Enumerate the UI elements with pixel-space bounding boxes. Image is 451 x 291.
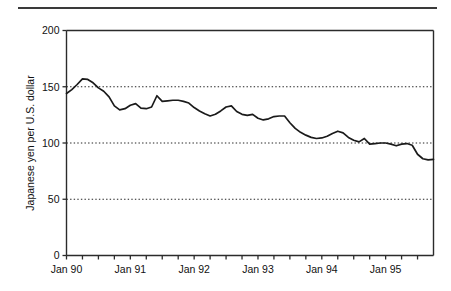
- y-tick-label: 0: [54, 249, 60, 261]
- y-tick-label: 50: [48, 193, 60, 205]
- x-axis-tick-labels: Jan 90Jan 91Jan 92Jan 93Jan 94Jan 95: [51, 263, 402, 275]
- x-tick-label: Jan 90: [51, 263, 83, 275]
- y-axis-tick-labels: 050100150200: [42, 24, 60, 261]
- x-tick-label: Jan 95: [370, 263, 402, 275]
- x-tick-label: Jan 93: [242, 263, 274, 275]
- x-tick-label: Jan 91: [115, 263, 147, 275]
- chart-figure: 050100150200 Jan 90Jan 91Jan 92Jan 93Jan…: [0, 0, 451, 291]
- data-series-line: [67, 79, 434, 160]
- x-tick-label: Jan 92: [178, 263, 210, 275]
- y-tick-label: 100: [42, 137, 60, 149]
- line-chart: 050100150200 Jan 90Jan 91Jan 92Jan 93Jan…: [0, 0, 451, 291]
- y-tick-label: 150: [42, 81, 60, 93]
- y-tick-label: 200: [42, 24, 60, 36]
- y-axis-title: Japanese yen per U.S. dollar: [24, 75, 36, 211]
- x-tick-label: Jan 94: [306, 263, 338, 275]
